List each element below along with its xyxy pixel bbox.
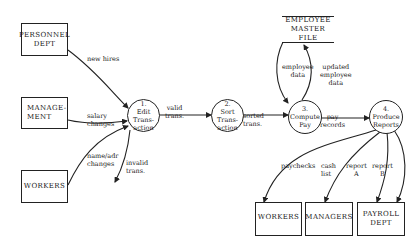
entity-personnel-dept: PERSONNEL DEPT bbox=[21, 23, 68, 56]
label-employee-data: employee data bbox=[282, 63, 314, 79]
label-report-a: report A bbox=[346, 162, 367, 178]
process-number: 4. bbox=[383, 105, 389, 113]
flow-report-b bbox=[394, 130, 405, 202]
process-number: 1. bbox=[140, 100, 146, 108]
label-salary-changes: salary changes bbox=[87, 112, 114, 128]
process-number: 3. bbox=[302, 105, 308, 113]
process-edit-transaction: 1. Edit Trans- action bbox=[127, 99, 160, 132]
label-paychecks: paychecks bbox=[281, 162, 315, 170]
process-label: Sort Trans- action bbox=[217, 108, 238, 132]
label-sorted-trans: sorted trans. bbox=[243, 112, 264, 128]
process-number: 2. bbox=[224, 100, 230, 108]
process-sort-transaction: 2. Sort Trans- action bbox=[211, 99, 244, 132]
process-label: Edit Trans- action bbox=[133, 108, 154, 132]
label-updated-employee-data: updated employee data bbox=[320, 63, 352, 87]
process-label: Produce Reports bbox=[372, 113, 399, 129]
label-pay-records: pay records bbox=[320, 113, 345, 129]
label-report-b: report B bbox=[372, 162, 393, 178]
entity-management: MANAGE- MENT bbox=[21, 97, 68, 129]
entity-workers-sink: WORKERS bbox=[255, 202, 302, 236]
label-cash-list: cash list bbox=[321, 162, 336, 178]
label-new-hires: new hires bbox=[87, 55, 119, 63]
process-compute-pay: 3. Compute Pay bbox=[288, 100, 322, 134]
label-invalid-trans: invalid trans. bbox=[126, 159, 148, 175]
entity-managers: MANAGERS bbox=[305, 202, 353, 236]
label-name-adr-changes: name/adr changes bbox=[87, 152, 118, 168]
entity-payroll-dept: PAYROLL DEPT bbox=[357, 202, 405, 236]
process-produce-reports: 4. Produce Reports bbox=[369, 100, 403, 134]
entity-workers-source: WORKERS bbox=[21, 170, 68, 203]
label-valid-trans: valid trans. bbox=[165, 104, 184, 120]
process-label: Compute Pay bbox=[290, 113, 320, 129]
datastore-employee-master-file: EMPLOYEE MASTER FILE bbox=[282, 16, 334, 43]
